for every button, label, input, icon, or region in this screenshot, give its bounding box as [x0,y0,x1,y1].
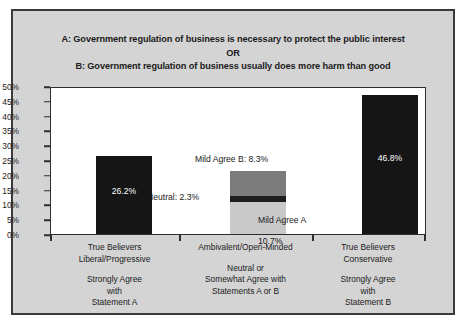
category-label-conservative-line1: True Believers [312,242,424,254]
y-tick-label-0: 0% [0,230,19,240]
category-label-liberal-line2: Liberal/Progressive [50,254,179,266]
category-label-liberal: True Believers Liberal/Progressive Stron… [50,242,179,309]
y-tick-label-45: 45% [0,97,19,107]
category-label-conservative-line2: Conservative [312,254,424,266]
bar-segment-neutral [230,196,286,203]
x-tick-mark-1 [179,235,181,241]
annotation-mild-agree-b: Mild Agree B: 8.3% [195,154,268,165]
bar-true-believers-conservative: 46.8% [362,95,418,234]
annotation-mild-agree-a-line1: Mild Agree A [258,215,306,226]
category-label-conservative: True Believers Conservative Strongly Agr… [312,242,424,309]
category-sublabel-conservative-line2: with [312,286,424,298]
y-tick-label-15: 15% [0,186,19,196]
chart-screenshot: A: Government regulation of business is … [0,0,466,335]
chart-frame: A: Government regulation of business is … [11,9,455,315]
chart-title: A: Government regulation of business is … [13,33,453,74]
category-label-ambivalent: Ambivalent/Open-Minded Neutral or Somewh… [179,242,312,297]
chart-title-line-3: B: Government regulation of business usu… [13,60,453,74]
x-tick-mark-2 [312,235,314,241]
category-label-ambivalent-line1: Ambivalent/Open-Minded [179,242,312,254]
category-sublabel-ambivalent-line3: Statements A or B [179,286,312,298]
category-sublabel-liberal-line3: Statement A [50,297,179,309]
y-tick-label-35: 35% [0,126,19,136]
bar-segment-strongly-agree-b [362,95,418,234]
category-label-liberal-line1: True Believers [50,242,179,254]
y-tick-label-40: 40% [0,112,19,122]
x-tick-mark-right [424,235,426,241]
y-tick-label-30: 30% [0,141,19,151]
category-sublabel-liberal-line1: Strongly Agree [50,274,179,286]
chart-title-line-2: OR [13,47,453,61]
y-tick-label-25: 25% [0,156,19,166]
category-sublabel-liberal-line2: with [50,286,179,298]
bar-value-label-1: 26.2% [96,186,152,196]
bar-value-label-3: 46.8% [362,153,418,163]
category-sublabel-ambivalent-line1: Neutral or [179,263,312,275]
category-sublabel-ambivalent-line2: Somewhat Agree with [179,274,312,286]
x-tick-mark-left [50,235,52,241]
y-tick-label-5: 5% [0,215,19,225]
category-sublabel-conservative-line3: Statement B [312,297,424,309]
bar-segment-mild-agree-b [230,171,286,196]
y-tick-label-20: 20% [0,171,19,181]
bar-true-believers-liberal: 26.2% [96,156,152,234]
y-tick-label-10: 10% [0,200,19,210]
chart-title-line-1: A: Government regulation of business is … [13,33,453,47]
y-tick-label-50: 50% [0,82,19,92]
annotation-neutral: Neutral: 2.3% [147,192,199,203]
category-sublabel-conservative-line1: Strongly Agree [312,274,424,286]
